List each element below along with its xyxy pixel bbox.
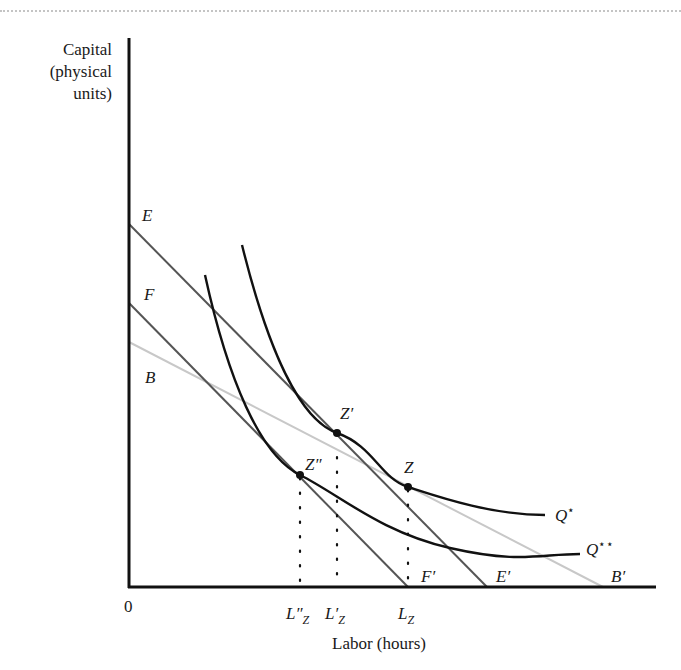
y-axis-label-line3: units) [73, 84, 112, 103]
x-axis-label: Labor (hours) [332, 634, 426, 653]
tick-L-prime: L′Z [324, 604, 345, 627]
tick-L: LZ [397, 604, 414, 627]
budget-line-E [129, 224, 487, 587]
label-Z-double-prime: Z″ [305, 455, 322, 474]
label-E: E [141, 206, 153, 225]
tick-L-double-prime: L″Z [285, 604, 310, 627]
label-F-prime: F′ [420, 567, 435, 586]
label-F: F [143, 285, 155, 304]
y-axis-label-line2: (physical [50, 62, 113, 81]
label-B-prime: B′ [611, 567, 625, 586]
point-Z-double-prime [296, 471, 304, 479]
origin-label: 0 [124, 597, 133, 616]
isoquant-diagram: Capital (physical units) E F B F′ E′ B′ … [0, 0, 681, 670]
label-B: B [145, 368, 156, 387]
label-Z-prime: Z′ [340, 404, 353, 423]
label-Z: Z [404, 458, 414, 477]
label-Q-double-star: Q⋆⋆ [586, 537, 614, 559]
y-axis-label-line1: Capital [63, 40, 112, 59]
point-Z-prime [333, 429, 341, 437]
label-Q-star: Q⋆ [555, 503, 575, 525]
label-E-prime: E′ [495, 567, 510, 586]
point-Z [404, 483, 412, 491]
isoquant-Q-star [242, 245, 545, 515]
